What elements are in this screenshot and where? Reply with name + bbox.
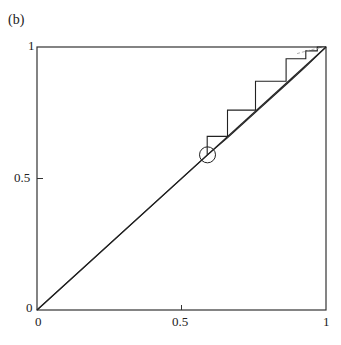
x-tick-0-5: 0.5 — [172, 314, 188, 330]
y-tick-1: 1 — [28, 38, 35, 54]
staircase-plot — [0, 0, 341, 345]
plot-area — [37, 47, 326, 310]
y-tick-0-5: 0.5 — [14, 170, 30, 186]
panel-label: (b) — [8, 12, 24, 28]
x-tick-1: 1 — [323, 314, 330, 330]
y-tick-0: 0 — [26, 300, 33, 316]
x-tick-0: 0 — [35, 314, 42, 330]
